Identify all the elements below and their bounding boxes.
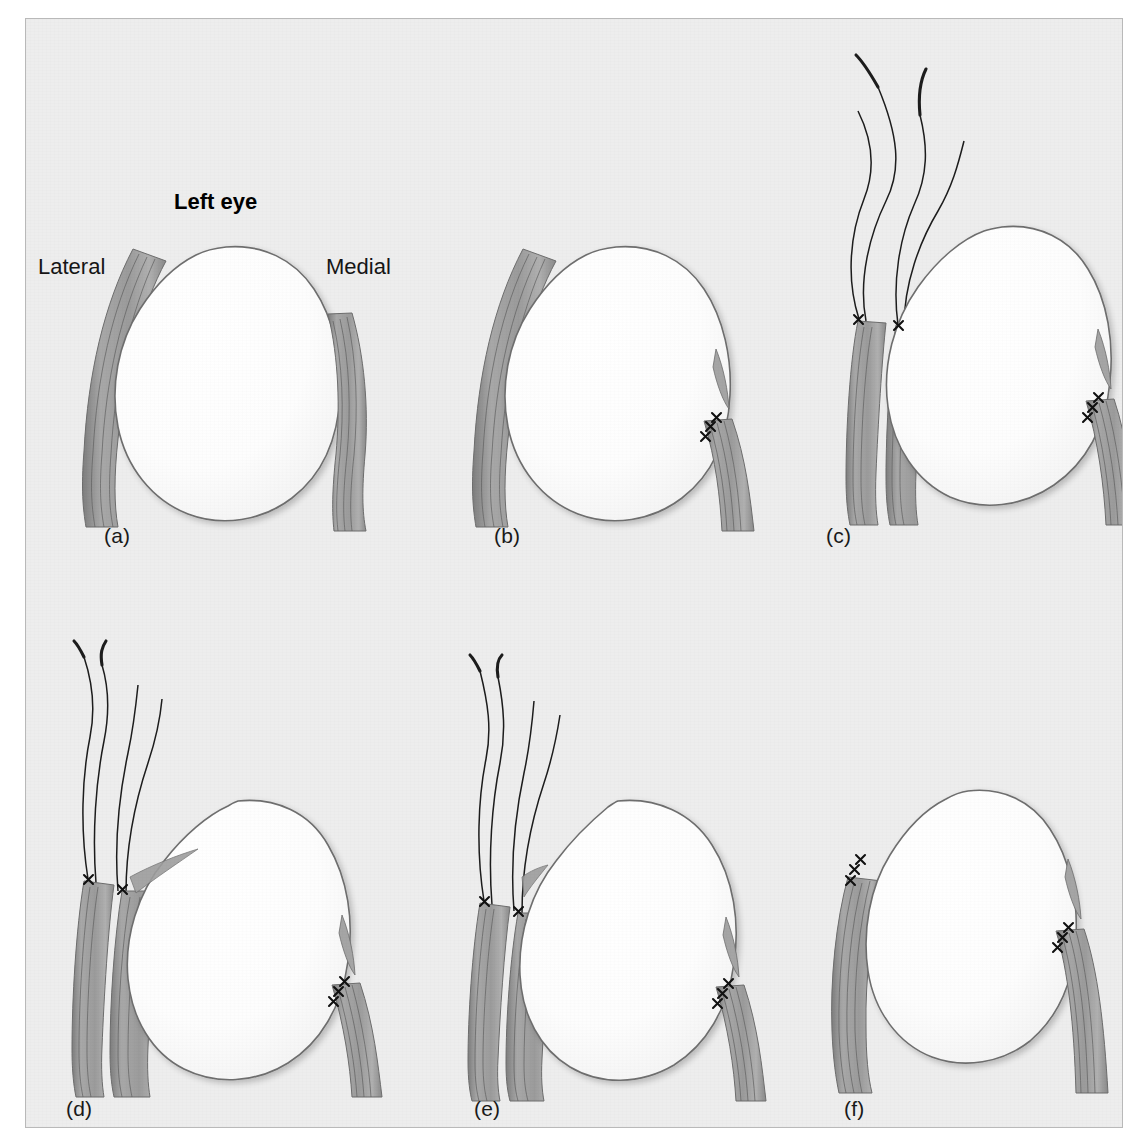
panel-caption-c: (c) — [826, 524, 851, 548]
medial-rectus-muscle-f — [1056, 929, 1108, 1093]
panel-f — [806, 759, 1123, 1109]
panel-caption-a: (a) — [104, 524, 130, 548]
panel-caption-d: (d) — [66, 1097, 92, 1121]
medial-rectus-muscle-e — [716, 985, 766, 1101]
panel-b — [416, 209, 816, 539]
medial-rectus-muscle-c — [1086, 399, 1123, 525]
medial-rectus-muscle-b — [704, 419, 754, 531]
panel-e — [426, 629, 826, 1109]
panel-c — [786, 29, 1123, 539]
panel-a — [26, 209, 426, 539]
eye-globe-e — [520, 800, 736, 1080]
panel-caption-f: (f) — [844, 1097, 864, 1121]
eye-globe-c — [886, 226, 1111, 505]
panel-caption-e: (e) — [474, 1097, 500, 1121]
eye-globe-d — [127, 800, 350, 1079]
medial-rectus-muscle-d — [332, 983, 382, 1097]
figure-frame: Left eye Lateral Medial — [25, 18, 1123, 1128]
eye-globe-f — [866, 790, 1076, 1063]
figure-root: Left eye Lateral Medial — [0, 0, 1142, 1148]
panel-d — [26, 629, 426, 1109]
suture-threads-d — [74, 641, 162, 893]
panel-caption-b: (b) — [494, 524, 520, 548]
